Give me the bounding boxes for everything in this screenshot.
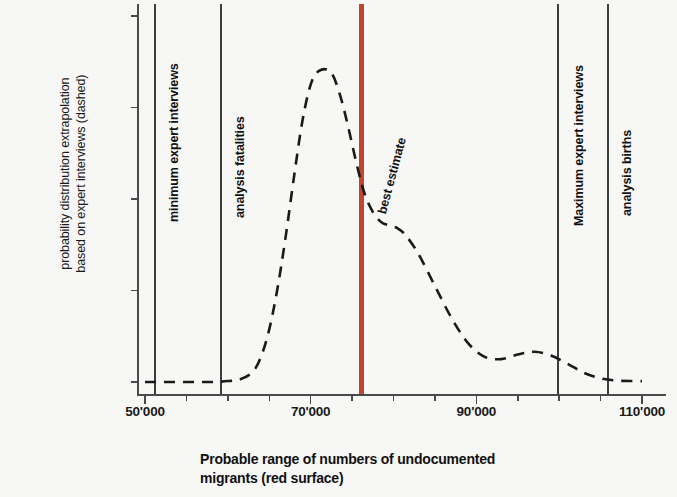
x-axis-minor-tick xyxy=(351,395,353,401)
y-axis-tick xyxy=(131,381,138,383)
x-axis-minor-tick xyxy=(434,395,436,401)
x-axis-minor-tick xyxy=(517,395,519,401)
y-axis-title-line1: probability distribution extrapolation xyxy=(58,24,74,324)
x-axis-tick-label: 50'000 xyxy=(125,404,165,419)
x-axis-tick xyxy=(641,395,643,404)
y-axis-tick xyxy=(131,107,138,109)
marker-label-maximum-expert-interviews: Maximum expert interviews xyxy=(572,65,586,226)
x-axis-tick xyxy=(310,395,312,404)
x-axis-minor-tick xyxy=(558,395,560,401)
marker-label-analysis-fatalities: analysis fatalities xyxy=(233,116,247,218)
x-axis-tick-label: 110'000 xyxy=(619,404,665,419)
marker-line-minimum-expert-interviews xyxy=(154,4,156,394)
y-axis-tick xyxy=(131,290,138,292)
marker-line-analysis-fatalities xyxy=(220,4,222,394)
x-axis-tick xyxy=(476,395,478,404)
x-axis-tick xyxy=(144,395,146,404)
x-axis-line xyxy=(137,394,666,396)
x-axis-tick-label: 70'000 xyxy=(291,404,331,419)
marker-line-maximum-expert-interviews xyxy=(557,4,559,394)
y-axis-tick xyxy=(131,198,138,200)
x-axis-minor-tick xyxy=(393,395,395,401)
chart-figure: probability distribution extrapolation b… xyxy=(0,0,677,497)
x-axis-minor-tick xyxy=(227,395,229,401)
x-axis-minor-tick xyxy=(186,395,188,401)
y-axis-tick xyxy=(131,15,138,17)
x-axis-title-line1: Probable range of numbers of undocumente… xyxy=(200,450,620,469)
y-axis-title-line2: based on expert interviews (dashed) xyxy=(74,24,90,324)
x-axis-title: Probable range of numbers of undocumente… xyxy=(200,450,620,488)
x-axis-minor-tick xyxy=(600,395,602,401)
x-axis-tick-label: 90'000 xyxy=(457,404,497,419)
y-axis-title: probability distribution extrapolation b… xyxy=(58,24,89,324)
x-axis-minor-tick xyxy=(269,395,271,401)
marker-label-minimum-expert-interviews: minimum expert interviews xyxy=(167,63,181,222)
marker-line-best-estimate xyxy=(359,4,364,394)
marker-label-best-estimate: best estimate xyxy=(375,136,409,216)
marker-label-analysis-births: analysis births xyxy=(620,130,634,216)
marker-line-analysis-births xyxy=(607,4,609,394)
x-axis-title-line2: migrants (red surface) xyxy=(200,469,620,488)
